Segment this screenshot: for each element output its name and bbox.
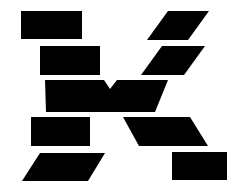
shape-stem-block-third [31, 117, 90, 146]
shape-stem-block-second [40, 46, 100, 75]
shape-stem-block-upper [21, 11, 82, 39]
letter-k-logo [0, 0, 249, 195]
shape-junction-block [45, 80, 168, 112]
shape-leg-block-lower [172, 152, 227, 180]
logo-canvas [0, 0, 249, 195]
